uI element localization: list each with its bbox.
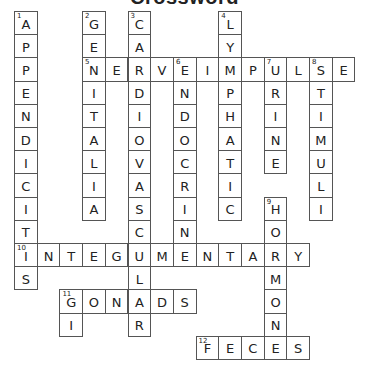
- crossword-cell[interactable]: S: [173, 289, 197, 313]
- crossword-cell[interactable]: Y: [218, 34, 242, 58]
- crossword-cell[interactable]: I: [309, 197, 333, 221]
- crossword-cell[interactable]: R: [173, 173, 197, 197]
- crossword-cell[interactable]: C: [173, 150, 197, 174]
- crossword-cell[interactable]: L: [309, 173, 333, 197]
- crossword-cell[interactable]: I: [59, 313, 83, 337]
- crossword-cell[interactable]: A: [218, 127, 242, 151]
- crossword-cell[interactable]: T: [14, 220, 38, 244]
- crossword-cell[interactable]: E6: [173, 57, 197, 81]
- crossword-cell[interactable]: P: [14, 57, 38, 81]
- crossword-cell[interactable]: I: [264, 104, 288, 128]
- crossword-cell[interactable]: N: [264, 127, 288, 151]
- crossword-cell[interactable]: R: [128, 57, 152, 81]
- crossword-cell[interactable]: T: [59, 243, 83, 267]
- crossword-cell[interactable]: D: [173, 104, 197, 128]
- crossword-cell[interactable]: S: [14, 266, 38, 290]
- crossword-cell[interactable]: I: [173, 197, 197, 221]
- crossword-cell[interactable]: V: [128, 150, 152, 174]
- crossword-cell[interactable]: I: [14, 197, 38, 221]
- crossword-cell[interactable]: N: [264, 313, 288, 337]
- crossword-cell[interactable]: N5: [82, 57, 106, 81]
- crossword-cell[interactable]: C: [128, 220, 152, 244]
- crossword-cell[interactable]: D: [128, 81, 152, 105]
- crossword-cell[interactable]: G: [105, 243, 129, 267]
- crossword-cell[interactable]: A: [82, 197, 106, 221]
- crossword-cell[interactable]: T: [218, 150, 242, 174]
- crossword-cell[interactable]: E: [14, 81, 38, 105]
- crossword-cell[interactable]: C: [241, 336, 265, 360]
- crossword-cell[interactable]: D: [150, 289, 174, 313]
- crossword-cell[interactable]: U: [309, 150, 333, 174]
- crossword-cell[interactable]: A: [128, 34, 152, 58]
- crossword-cell[interactable]: S8: [309, 57, 333, 81]
- crossword-cell[interactable]: P: [14, 34, 38, 58]
- crossword-cell[interactable]: C: [218, 197, 242, 221]
- crossword-cell[interactable]: A: [82, 127, 106, 151]
- crossword-cell[interactable]: E: [218, 336, 242, 360]
- crossword-cell[interactable]: T: [218, 243, 242, 267]
- crossword-cell[interactable]: A: [128, 173, 152, 197]
- crossword-cell[interactable]: R: [264, 81, 288, 105]
- crossword-cell[interactable]: N: [105, 289, 129, 313]
- crossword-cell[interactable]: I: [218, 173, 242, 197]
- crossword-cell[interactable]: I: [196, 57, 220, 81]
- crossword-cell[interactable]: Y: [286, 243, 310, 267]
- crossword-cell[interactable]: S: [286, 336, 310, 360]
- crossword-cell[interactable]: O: [264, 220, 288, 244]
- crossword-cell[interactable]: N: [14, 104, 38, 128]
- crossword-cell[interactable]: T: [309, 81, 333, 105]
- crossword-cell[interactable]: U7: [264, 57, 288, 81]
- crossword-cell[interactable]: H: [218, 104, 242, 128]
- crossword-cell[interactable]: H9: [264, 197, 288, 221]
- crossword-cell[interactable]: A: [241, 243, 265, 267]
- crossword-cell[interactable]: E: [264, 336, 288, 360]
- crossword-cell[interactable]: M: [309, 127, 333, 151]
- crossword-cell[interactable]: R: [128, 313, 152, 337]
- crossword-cell[interactable]: P: [241, 57, 265, 81]
- crossword-cell[interactable]: C3: [128, 11, 152, 35]
- crossword-cell[interactable]: E: [264, 150, 288, 174]
- crossword-cell[interactable]: F12: [196, 336, 220, 360]
- crossword-cell[interactable]: N: [196, 243, 220, 267]
- crossword-cell[interactable]: E: [82, 34, 106, 58]
- crossword-cell[interactable]: I: [128, 104, 152, 128]
- crossword-cell[interactable]: N: [37, 243, 61, 267]
- crossword-cell[interactable]: O: [82, 289, 106, 313]
- crossword-cell[interactable]: I10: [14, 243, 38, 267]
- cell-letter: P: [22, 40, 30, 55]
- crossword-cell[interactable]: L: [286, 57, 310, 81]
- crossword-cell[interactable]: N: [173, 220, 197, 244]
- crossword-cell[interactable]: E: [82, 243, 106, 267]
- crossword-cell[interactable]: O: [264, 289, 288, 313]
- crossword-cell[interactable]: U: [128, 243, 152, 267]
- crossword-cell[interactable]: V: [150, 57, 174, 81]
- cell-letter: C: [248, 341, 257, 356]
- crossword-cell[interactable]: C: [14, 173, 38, 197]
- crossword-cell[interactable]: I: [82, 173, 106, 197]
- crossword-cell[interactable]: O: [173, 127, 197, 151]
- crossword-cell[interactable]: M: [264, 266, 288, 290]
- crossword-cell[interactable]: R: [264, 243, 288, 267]
- crossword-cell[interactable]: N: [173, 81, 197, 105]
- crossword-cell[interactable]: M: [150, 243, 174, 267]
- crossword-cell[interactable]: G11: [59, 289, 83, 313]
- crossword-cell[interactable]: I: [309, 104, 333, 128]
- crossword-cell[interactable]: A1: [14, 11, 38, 35]
- crossword-cell[interactable]: M: [218, 57, 242, 81]
- crossword-cell[interactable]: E: [105, 57, 129, 81]
- crossword-cell[interactable]: I: [14, 150, 38, 174]
- crossword-cell[interactable]: P: [218, 81, 242, 105]
- crossword-cell[interactable]: L4: [218, 11, 242, 35]
- cell-letter: S: [317, 63, 325, 78]
- crossword-cell[interactable]: S: [128, 197, 152, 221]
- crossword-cell[interactable]: G2: [82, 11, 106, 35]
- crossword-cell[interactable]: E: [332, 57, 356, 81]
- crossword-cell[interactable]: E: [173, 243, 197, 267]
- crossword-cell[interactable]: L: [82, 150, 106, 174]
- crossword-cell[interactable]: L: [128, 266, 152, 290]
- crossword-cell[interactable]: T: [82, 104, 106, 128]
- crossword-cell[interactable]: O: [128, 127, 152, 151]
- crossword-cell[interactable]: I: [82, 81, 106, 105]
- crossword-cell[interactable]: A: [128, 289, 152, 313]
- crossword-cell[interactable]: D: [14, 127, 38, 151]
